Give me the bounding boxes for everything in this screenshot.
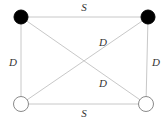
node-bottom-right-hollow (139, 97, 154, 112)
label-diagonal-lower: D (98, 77, 107, 89)
label-bottom-edge: S (81, 107, 87, 119)
label-left-edge: D (8, 56, 17, 68)
node-top-left-filled (14, 10, 28, 24)
node-top-right-filled (141, 10, 155, 24)
graph-diagram: S S D D D D (0, 0, 167, 121)
label-right-edge: D (151, 56, 160, 68)
edge-right-d (146, 17, 148, 104)
node-bottom-left-hollow (14, 97, 29, 112)
label-diagonal-upper: D (98, 36, 107, 48)
label-top-edge: S (81, 1, 87, 13)
